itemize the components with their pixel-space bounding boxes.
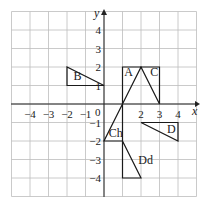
y-tick-label: 4 — [96, 24, 102, 36]
triangles: BACDChDd — [67, 65, 178, 178]
y-tick-label: 3 — [96, 43, 102, 55]
x-tick-label: 2 — [138, 108, 144, 120]
triangle-label: A — [124, 65, 133, 79]
x-tick-label: −3 — [43, 108, 55, 120]
triangle-label: B — [73, 69, 81, 83]
y-tick-label: −2 — [89, 135, 101, 147]
triangle-c: C — [141, 65, 160, 104]
x-tick-label: 4 — [175, 108, 181, 120]
y-axis-label: y — [93, 6, 100, 20]
triangle-label: C — [150, 65, 158, 79]
y-tick-label: 2 — [96, 61, 102, 73]
x-tick-label: −2 — [61, 108, 73, 120]
axes: x y 0 — [11, 6, 200, 197]
y-tick-label: −3 — [89, 154, 101, 166]
x-tick-labels: −4−3−2−1234 — [24, 108, 181, 120]
triangle-a: A — [123, 65, 142, 104]
x-tick-label: 3 — [157, 108, 163, 120]
triangle-label: Ch — [109, 126, 123, 140]
x-axis-label: x — [191, 104, 198, 118]
y-axis-arrow-icon — [101, 9, 107, 15]
x-tick-label: −4 — [24, 108, 36, 120]
triangle-label: Dd — [138, 153, 153, 167]
coordinate-grid-diagram: x y 0 −4−3−2−1234 4321−1−2−3−4 BACDChDd — [0, 0, 203, 204]
triangle-label: D — [167, 122, 176, 136]
y-tick-label: −4 — [89, 172, 101, 184]
y-tick-label: −1 — [89, 117, 101, 129]
